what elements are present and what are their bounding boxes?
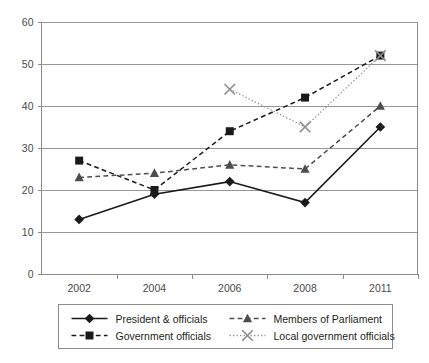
chart-background — [0, 0, 429, 363]
data-point-square — [75, 157, 83, 165]
y-tick-label: 20 — [22, 184, 34, 196]
x-tick-label: 2008 — [293, 282, 317, 294]
data-point-square — [226, 127, 234, 135]
y-tick-label: 0 — [28, 268, 34, 280]
x-tick-label: 2006 — [218, 282, 242, 294]
x-tick-label: 2011 — [369, 282, 392, 294]
y-tick-label: 50 — [22, 58, 34, 70]
legend-label: Members of Parliament — [274, 313, 383, 325]
data-point-square — [150, 186, 158, 194]
x-tick-label: 2004 — [143, 282, 167, 294]
legend-label: Local government officials — [274, 330, 395, 342]
y-tick-label: 60 — [22, 16, 34, 28]
data-point-square — [301, 94, 309, 102]
y-tick-label: 40 — [22, 100, 34, 112]
legend-label: Government officials — [116, 330, 212, 342]
legend-square-icon — [86, 332, 94, 340]
y-tick-label: 10 — [22, 226, 34, 238]
legend-label: President & officials — [116, 313, 208, 325]
x-tick-label: 2002 — [67, 282, 91, 294]
line-chart: 0102030405060 20022004200620082011 Presi… — [0, 0, 429, 363]
y-tick-label: 30 — [22, 142, 34, 154]
chart-figure: 0102030405060 20022004200620082011 Presi… — [0, 0, 429, 363]
